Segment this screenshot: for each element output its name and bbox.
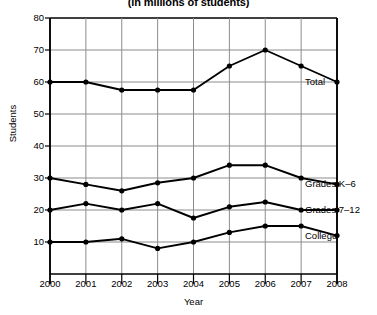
series-label-grades-7-12: Grades 7–12 — [305, 205, 360, 215]
data-point — [299, 175, 304, 180]
data-point — [155, 180, 160, 185]
series-label-grades-k-6: Grades K–6 — [305, 179, 356, 189]
data-point — [299, 207, 304, 212]
data-point — [83, 182, 88, 187]
data-point — [83, 239, 88, 244]
data-point — [263, 223, 268, 228]
data-point — [119, 236, 124, 241]
data-point — [263, 47, 268, 52]
data-point — [191, 215, 196, 220]
data-point — [227, 63, 232, 68]
data-point — [47, 79, 52, 84]
data-point — [227, 163, 232, 168]
data-point — [119, 188, 124, 193]
series-label-college: College — [305, 231, 337, 241]
data-point — [227, 204, 232, 209]
data-point — [119, 207, 124, 212]
data-point — [155, 201, 160, 206]
series-label-total: Total — [305, 77, 325, 87]
line-chart: (in millions of students) Students Year … — [0, 0, 377, 315]
data-point — [263, 199, 268, 204]
data-point — [155, 87, 160, 92]
data-point — [191, 175, 196, 180]
data-point — [334, 79, 339, 84]
data-point — [227, 230, 232, 235]
plot-area — [0, 0, 377, 315]
data-point — [47, 175, 52, 180]
data-point — [47, 207, 52, 212]
data-point — [83, 201, 88, 206]
data-point — [191, 87, 196, 92]
data-point — [119, 87, 124, 92]
data-point — [299, 63, 304, 68]
data-point — [191, 239, 196, 244]
data-point — [299, 223, 304, 228]
data-point — [263, 163, 268, 168]
data-point — [83, 79, 88, 84]
data-point — [47, 239, 52, 244]
data-point — [155, 246, 160, 251]
